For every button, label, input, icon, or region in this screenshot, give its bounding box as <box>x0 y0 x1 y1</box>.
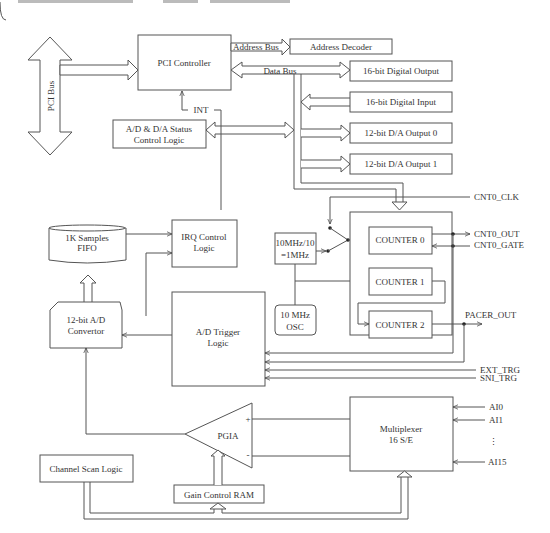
cnt0-clk-label: CNT0_CLK <box>474 192 520 202</box>
svg-text:INT: INT <box>194 105 209 115</box>
counter-0: COUNTER 0 <box>369 227 432 254</box>
svg-text:Channel Scan Logic: Channel Scan Logic <box>50 464 123 474</box>
pci-bus-arrow <box>60 60 138 80</box>
svg-text:COUNTER 1: COUNTER 1 <box>375 277 424 287</box>
adc-to-irq <box>146 253 172 316</box>
svg-text:A/D & D/A Status: A/D & D/A Status <box>126 124 193 134</box>
ai15-label: AI15 <box>488 457 507 467</box>
svg-text:Gain Control RAM: Gain Control RAM <box>184 490 254 500</box>
digital-input-arrow <box>301 94 350 110</box>
da0-arrow <box>301 125 350 141</box>
ai0-label: AI0 <box>489 402 503 412</box>
pci-bus-label: PCI Bus <box>46 80 56 111</box>
svg-text:-: - <box>247 450 250 460</box>
gain-control-ram: Gain Control RAM <box>174 485 264 503</box>
pci-controller: PCI Controller <box>138 35 231 90</box>
svg-text:10MHz/10: 10MHz/10 <box>276 238 315 248</box>
da1-arrow <box>301 156 350 172</box>
channel-scan-logic: Channel Scan Logic <box>40 455 133 482</box>
svg-text:Data Bus: Data Bus <box>263 66 297 76</box>
oscillator: 10 MHz OSC <box>275 305 316 335</box>
da-output-0-block: 12-bit D/A Output 0 <box>350 123 452 143</box>
address-decoder: Address Decoder <box>290 39 392 54</box>
pci-bus: PCI Bus <box>28 37 72 155</box>
multiplexer: Multiplexer 16 S/E <box>350 397 453 471</box>
ai1-label: AI1 <box>489 415 503 425</box>
status-bus-arrow <box>206 122 294 138</box>
svg-text:Address Bus: Address Bus <box>233 42 279 52</box>
counter-1: COUNTER 1 <box>369 268 432 295</box>
cnt0-gate-label: CNT0_GATE <box>474 240 524 250</box>
svg-text:FIFO: FIFO <box>77 243 97 253</box>
svg-text:12-bit D/A Output 1: 12-bit D/A Output 1 <box>365 159 438 169</box>
cropped-header-text <box>0 0 290 20</box>
adc-block: 12-bit A/D Convertor <box>50 302 122 348</box>
cnt0-out-label: CNT0_OUT <box>474 229 520 239</box>
digital-input-block: 16-bit Digital Input <box>350 92 452 112</box>
pacer-out-label: PACER_OUT <box>465 310 517 320</box>
gain-to-pgia-arrow <box>211 450 225 485</box>
address-bus: Address Bus <box>231 39 290 55</box>
scan-to-gain-arrowhead <box>210 503 226 509</box>
ellipsis-label: ⋮ <box>489 437 498 447</box>
adc-to-fifo-arrow <box>80 275 96 302</box>
scan-to-mux-arrowhead <box>397 471 412 477</box>
svg-text:10 MHz: 10 MHz <box>280 310 310 320</box>
svg-text:16-bit Digital Output: 16-bit Digital Output <box>363 66 439 76</box>
svg-text:IRQ Control: IRQ Control <box>181 232 227 242</box>
svg-text:PCI Controller: PCI Controller <box>157 58 210 68</box>
int-signal: INT <box>182 91 221 210</box>
irq-control-logic: IRQ Control Logic <box>172 220 237 267</box>
svg-text:16 S/E: 16 S/E <box>389 435 414 445</box>
svg-text:12-bit A/D: 12-bit A/D <box>67 315 106 325</box>
svg-text:Multiplexer: Multiplexer <box>380 424 423 434</box>
svg-text:COUNTER 0: COUNTER 0 <box>375 235 425 245</box>
clock-divider: 10MHz/10 =1MHz <box>275 233 316 264</box>
svg-text:1K Samples: 1K Samples <box>65 233 109 243</box>
svg-text:Control Logic: Control Logic <box>134 135 185 145</box>
digital-output-block: 16-bit Digital Output <box>350 61 452 81</box>
svg-text:Logic: Logic <box>194 243 215 253</box>
sni-trg-label: SNI_TRG <box>480 373 518 383</box>
svg-text:=1MHz: =1MHz <box>281 250 309 260</box>
svg-text:12-bit D/A Output 0: 12-bit D/A Output 0 <box>365 128 438 138</box>
clock-select-switch <box>328 228 348 251</box>
svg-text:A/D Trigger: A/D Trigger <box>196 327 240 337</box>
svg-text:PGIA: PGIA <box>217 431 239 441</box>
block-diagram: PCI Bus PCI Controller Address Bus Addre… <box>0 0 550 533</box>
pgia-to-adc <box>86 348 185 434</box>
svg-text:Address Decoder: Address Decoder <box>310 42 372 52</box>
svg-text:OSC: OSC <box>286 322 304 332</box>
ad-trigger-logic: A/D Trigger Logic <box>172 292 265 386</box>
svg-text:Convertor: Convertor <box>68 326 105 336</box>
svg-text:Logic: Logic <box>208 338 229 348</box>
svg-text:16-bit Digital Input: 16-bit Digital Input <box>366 97 436 107</box>
status-control-logic: A/D & D/A Status Control Logic <box>113 120 206 148</box>
counter-2: COUNTER 2 <box>369 311 432 338</box>
svg-text:+: + <box>245 414 250 424</box>
fifo-block: 1K Samples FIFO <box>49 225 126 263</box>
svg-text:COUNTER 2: COUNTER 2 <box>375 320 424 330</box>
da-output-1-block: 12-bit D/A Output 1 <box>350 154 452 174</box>
